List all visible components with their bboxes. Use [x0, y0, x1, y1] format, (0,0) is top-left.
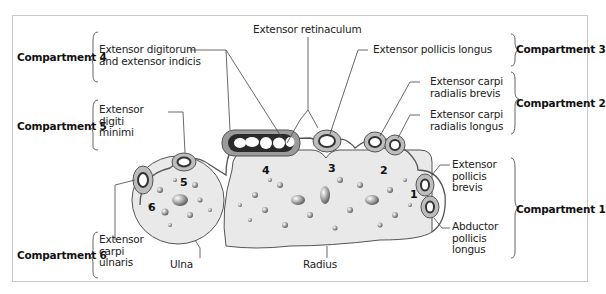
compartment-number-2: 2: [380, 164, 388, 177]
label-ulna: Ulna: [170, 259, 193, 271]
compartment-3-label: Compartment 3: [516, 43, 606, 55]
label-extensor-carpi-ulnaris: Extensor carpi ulnaris: [99, 234, 144, 269]
compartment-6-label: Compartment 6: [17, 249, 107, 261]
compartment-number-6: 6: [148, 201, 156, 214]
compartment-1-label: Compartment 1: [516, 203, 606, 215]
label-extensor-carpi-radialis-longus: Extensor carpi radialis longus: [430, 109, 503, 132]
label-extensor-pollicis-longus: Extensor pollicis longus: [373, 44, 492, 56]
compartment-number-4: 4: [262, 164, 270, 177]
label-extensor-digiti-minimi: Extensor digiti minimi: [99, 104, 144, 139]
compartment-number-5: 5: [180, 176, 188, 189]
label-extensor-digitorum: Extensor digitorum and extensor indicis: [99, 44, 201, 67]
label-extensor-pollicis-brevis: Extensor pollicis brevis: [452, 159, 497, 194]
label-extensor-retinaculum: Extensor retinaculum: [253, 24, 362, 36]
compartment-2-label: Compartment 2: [516, 97, 606, 109]
label-extensor-carpi-radialis-brevis: Extensor carpi radialis brevis: [430, 76, 503, 99]
label-abductor-pollicis-longus: Abductor pollicis longus: [452, 221, 498, 256]
compartment-number-1: 1: [410, 188, 418, 201]
compartment-number-3: 3: [328, 162, 336, 175]
compartment-5-label: Compartment 5: [17, 120, 107, 132]
label-radius: Radius: [303, 259, 337, 271]
compartment-4-label: Compartment 4: [17, 51, 107, 63]
